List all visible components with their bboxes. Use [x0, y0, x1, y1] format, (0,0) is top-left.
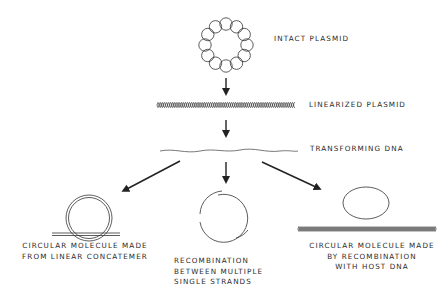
- label-line: BETWEEN MULTIPLE: [174, 267, 263, 278]
- label-single-strands: RECOMBINATION BETWEEN MULTIPLE SINGLE ST…: [174, 256, 263, 288]
- label-line: FROM LINEAR CONCATEMER: [6, 252, 164, 263]
- label-line: RECOMBINATION: [174, 256, 263, 267]
- label-intact-plasmid: INTACT PLASMID: [274, 34, 349, 45]
- label-line: BY RECOMBINATION: [298, 252, 446, 263]
- arrow-right-branch: [262, 162, 318, 188]
- label-transforming-dna: TRANSFORMING DNA: [310, 144, 404, 155]
- transforming-dna-icon: [160, 149, 298, 152]
- intact-plasmid-icon: [199, 18, 253, 72]
- label-line: WITH HOST DNA: [298, 262, 446, 273]
- label-linearized-plasmid: LINEARIZED PLASMID: [309, 100, 406, 111]
- label-concatemer: CIRCULAR MOLECULE MADE FROM LINEAR CONCA…: [6, 241, 164, 262]
- label-line: SINGLE STRANDS: [174, 277, 263, 288]
- label-line: CIRCULAR MOLECULE MADE: [6, 241, 164, 252]
- label-host-dna: CIRCULAR MOLECULE MADE BY RECOMBINATION …: [298, 241, 446, 273]
- single-strands-circle-icon: [200, 191, 248, 242]
- label-line: CIRCULAR MOLECULE MADE: [298, 241, 446, 252]
- host-dna-circle-icon: [298, 187, 436, 231]
- linearized-plasmid-icon: [157, 102, 295, 107]
- concatemer-circle-icon: [52, 195, 120, 241]
- arrow-left-branch: [125, 161, 180, 190]
